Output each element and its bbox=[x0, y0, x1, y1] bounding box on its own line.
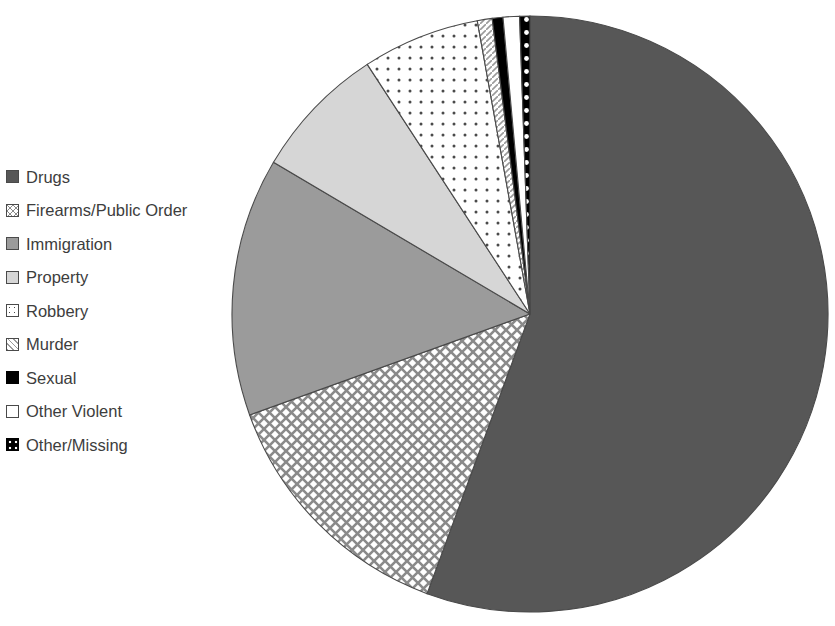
swatch-black-white-dots-icon bbox=[6, 438, 19, 451]
legend-item-label: Other/Missing bbox=[26, 437, 128, 454]
legend-item: Other/Missing bbox=[6, 428, 230, 462]
legend-item-label: Other Violent bbox=[26, 403, 122, 420]
swatch-solid-mid-gray-icon bbox=[6, 237, 19, 250]
legend-item: Property bbox=[6, 261, 230, 295]
legend-item-label: Robbery bbox=[26, 303, 88, 320]
legend-item: Drugs bbox=[6, 160, 230, 194]
legend-item-label: Drugs bbox=[26, 169, 70, 186]
pie-chart-figure: Drugs: 55.6%Firearms/Public Order: 13.9%… bbox=[0, 0, 835, 626]
chart-legend: DrugsFirearms/Public OrderImmigrationPro… bbox=[6, 160, 230, 462]
swatch-solid-dark-gray-icon bbox=[6, 170, 19, 183]
legend-item: Firearms/Public Order bbox=[6, 194, 230, 228]
legend-item: Immigration bbox=[6, 227, 230, 261]
swatch-white-icon bbox=[6, 405, 19, 418]
legend-item: Sexual bbox=[6, 361, 230, 395]
legend-item-label: Firearms/Public Order bbox=[26, 202, 187, 219]
legend-item: Murder bbox=[6, 328, 230, 362]
swatch-solid-light-gray-icon bbox=[6, 271, 19, 284]
swatch-cross-hatch-icon bbox=[6, 204, 19, 217]
swatch-solid-black-icon bbox=[6, 371, 19, 384]
legend-item-label: Immigration bbox=[26, 236, 112, 253]
swatch-dots-icon bbox=[6, 304, 19, 317]
legend-item-label: Sexual bbox=[26, 370, 76, 387]
pie-slices-group: Drugs: 55.6%Firearms/Public Order: 13.9%… bbox=[232, 16, 828, 612]
legend-item-label: Property bbox=[26, 269, 88, 286]
legend-item: Other Violent bbox=[6, 395, 230, 429]
legend-item: Robbery bbox=[6, 294, 230, 328]
swatch-diagonal-hatch-icon bbox=[6, 338, 19, 351]
legend-item-label: Murder bbox=[26, 336, 78, 353]
